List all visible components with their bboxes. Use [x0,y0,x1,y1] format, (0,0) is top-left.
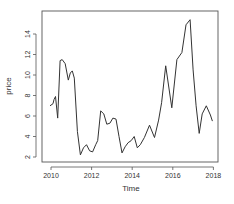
x-tick-label: 2016 [165,172,181,179]
y-axis: 2468101214 [24,30,36,159]
plot-frame [42,11,218,162]
y-tick-label: 12 [24,51,31,59]
price-time-series-chart: 2468101214 20102012201420162018 Time pri… [0,0,234,204]
y-tick-label: 10 [24,71,31,79]
y-tick-label: 6 [24,114,31,118]
chart-canvas: 2468101214 20102012201420162018 Time pri… [0,0,234,204]
y-tick-label: 14 [24,30,31,38]
x-tick-label: 2018 [206,172,222,179]
x-axis-label: Time [122,184,140,193]
x-axis: 20102012201420162018 [43,167,221,179]
y-tick-label: 2 [24,155,31,159]
y-tick-label: 8 [24,93,31,97]
x-tick-label: 2012 [84,172,100,179]
y-axis-label: price [4,77,13,95]
price-line [50,20,212,155]
x-tick-label: 2010 [43,172,59,179]
y-tick-label: 4 [24,134,31,138]
x-tick-label: 2014 [124,172,140,179]
